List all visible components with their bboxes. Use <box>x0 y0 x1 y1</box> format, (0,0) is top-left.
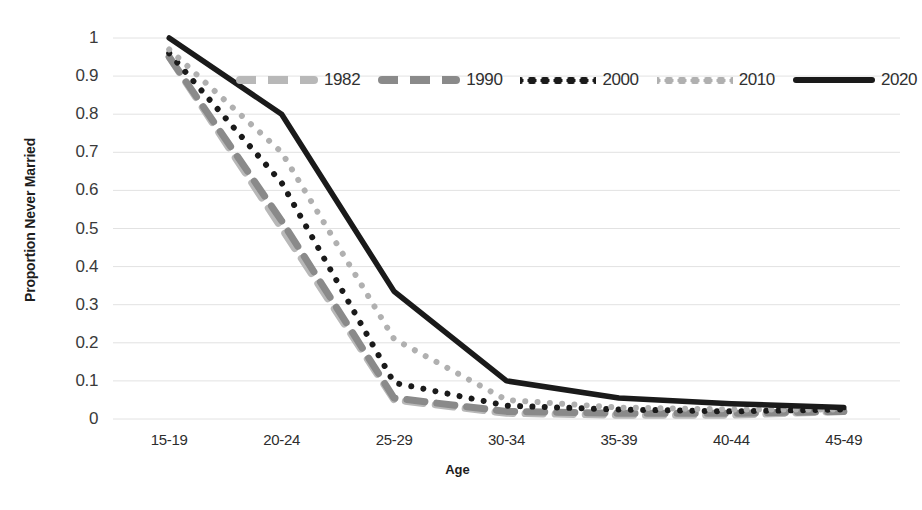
legend-item-2020[interactable]: 2020 <box>793 70 917 90</box>
legend-swatch-dashed-icon <box>378 76 460 84</box>
y-tick-label: 0.5 <box>38 219 98 239</box>
y-tick-label: 0 <box>38 409 98 429</box>
legend-label-2010: 2010 <box>739 70 775 90</box>
legend-swatch-dotted-icon <box>657 77 733 84</box>
series-line-2020 <box>169 38 844 408</box>
legend-swatch-solid-icon <box>793 77 875 83</box>
legend-label-1990: 1990 <box>466 70 502 90</box>
legend-swatch-dashed-icon <box>236 76 318 84</box>
legend-label-1982: 1982 <box>324 70 360 90</box>
x-tick-label: 40-44 <box>713 431 750 448</box>
x-axis-title: Age <box>0 462 915 477</box>
gridlines <box>113 38 900 419</box>
legend-label-2000: 2000 <box>602 70 638 90</box>
y-tick-label: 0.4 <box>38 257 98 277</box>
legend-item-1990[interactable]: 1990 <box>378 70 502 90</box>
x-tick-label: 30-34 <box>488 431 525 448</box>
x-tick-label: 35-39 <box>600 431 637 448</box>
y-tick-label: 0.6 <box>38 180 98 200</box>
series-line-1990 <box>169 57 844 413</box>
legend-swatch-dotted-icon <box>520 77 596 84</box>
x-tick-label: 15-19 <box>151 431 188 448</box>
legend-label-2020: 2020 <box>881 70 917 90</box>
legend-item-2010[interactable]: 2010 <box>657 70 775 90</box>
legend-item-2000[interactable]: 2000 <box>520 70 638 90</box>
y-tick-label: 0.2 <box>38 333 98 353</box>
y-tick-label: 0.3 <box>38 295 98 315</box>
series-lines <box>169 38 844 415</box>
x-tick-label: 25-29 <box>376 431 413 448</box>
chart-legend: 19821990200020102020 <box>236 68 922 92</box>
series-line-1982 <box>169 57 844 415</box>
y-tick-label: 1 <box>38 28 98 48</box>
y-tick-label: 0.1 <box>38 371 98 391</box>
y-tick-label: 0.7 <box>38 142 98 162</box>
y-tick-label: 0.9 <box>38 66 98 86</box>
y-tick-label: 0.8 <box>38 104 98 124</box>
x-tick-label: 45-49 <box>825 431 862 448</box>
legend-item-1982[interactable]: 1982 <box>236 70 360 90</box>
x-tick-label: 20-24 <box>263 431 300 448</box>
